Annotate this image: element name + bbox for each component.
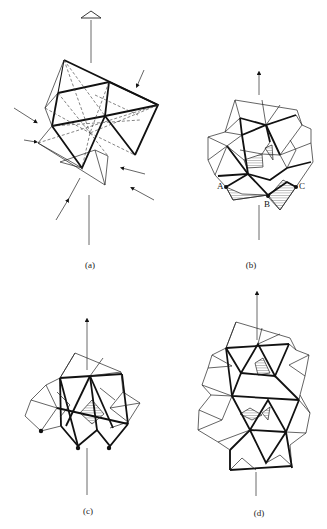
axis-triangle-arrowhead-icon [81, 11, 101, 18]
point-label-a: A [217, 181, 224, 191]
vertex-point-b [266, 194, 270, 198]
panel-caption-b: (b) [246, 260, 257, 270]
vertex-point-c [294, 185, 298, 189]
diagram-canvas [0, 0, 327, 529]
panel-b-diagram [208, 73, 313, 240]
point-label-c: C [299, 181, 305, 191]
panel-caption-c: (c) [83, 506, 93, 516]
vertex-dot-left [39, 429, 43, 433]
panel-a-diagram [14, 11, 158, 245]
vertex-dot-right [107, 446, 111, 450]
panel-caption-d: (d) [254, 508, 265, 518]
point-label-b: B [264, 199, 270, 209]
vertex-point-a [224, 185, 228, 189]
panel-caption-a: (a) [85, 260, 95, 270]
panel-d-diagram [198, 293, 310, 496]
vertex-dot-center [76, 446, 80, 450]
panel-c-diagram [25, 320, 140, 495]
